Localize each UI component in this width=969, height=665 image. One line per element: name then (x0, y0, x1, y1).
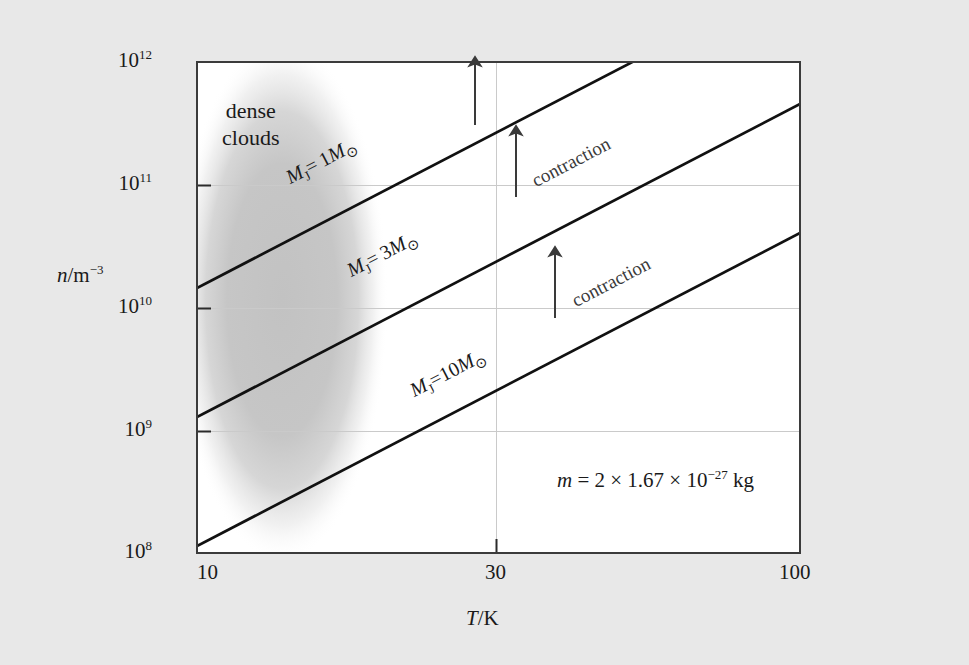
xtick-label-30: 30 (485, 562, 506, 583)
mass-formula-annotation: m = 2 × 1.67 × 10−27 kg (557, 470, 754, 491)
ytick-label-1e11: 1011 (118, 173, 152, 194)
ytick-label-1e12: 1012 (118, 50, 152, 71)
ytick-label-1e9: 109 (124, 419, 152, 440)
ytick-label-1e10: 1010 (118, 296, 152, 317)
dense-clouds-line-1: dense (222, 98, 279, 125)
y-axis-label: n/m−3 (57, 265, 104, 286)
xtick-label-10: 10 (197, 562, 218, 583)
ytick-label-1e8: 108 (124, 541, 152, 562)
dense-clouds-line-2: clouds (222, 125, 279, 152)
dense-clouds-region (176, 38, 388, 562)
x-axis-label: T/K (466, 608, 499, 629)
xtick-label-100: 100 (779, 562, 811, 583)
figure-canvas: 1012 1011 1010 109 108 n/m−3 10 30 100 T… (0, 0, 969, 665)
dense-clouds-label: dense clouds (222, 98, 279, 152)
